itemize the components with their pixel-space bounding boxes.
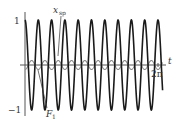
svg-text:1: 1	[52, 113, 56, 120]
y-tick-label-minus1: −1	[8, 105, 21, 115]
y-tick-label-1: 1	[14, 16, 20, 26]
svg-text:sp: sp	[59, 9, 66, 17]
chart: 1 −1 t 2π x sp F 1	[0, 0, 181, 123]
x-axis-label-t: t	[168, 56, 172, 66]
svg-text:x: x	[53, 5, 58, 15]
x-tick-label-2pi: 2π	[151, 69, 163, 79]
